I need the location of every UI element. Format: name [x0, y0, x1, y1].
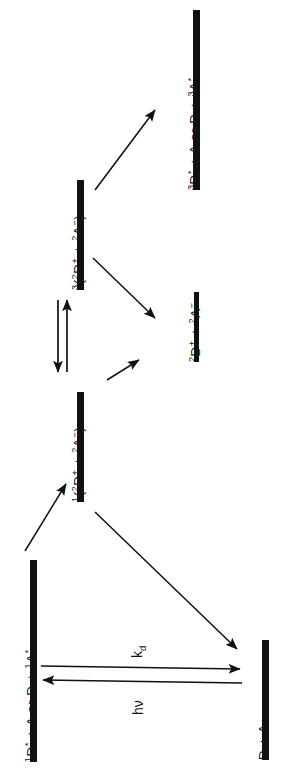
arrow-singlet-pair-to-ground: [95, 512, 237, 649]
energy-level-diagram: 1D* + A or D + 1A* 1(2D+ + 2A−) 3(2D+ + …: [0, 0, 286, 768]
rate-label-hnu: hν: [130, 700, 146, 715]
level-label-ground-state: D + A: [257, 724, 271, 760]
level-label-singlet-excited: 1D* + A or D + 1A*: [25, 649, 39, 762]
level-label-triplet-ion-pair: 3(2D+ + 2A−): [72, 215, 86, 290]
arrow-excited-to-ground-kd: [41, 666, 240, 669]
rate-label-kd: kd: [129, 646, 145, 658]
arrow-ground-to-excited-hnu: [43, 680, 242, 683]
arrow-triplet-pair-to-triplet-excited: [95, 110, 155, 190]
arrow-triplet-pair-to-free-ions: [93, 258, 155, 318]
arrow-excite-to-singlet-pair: [25, 484, 66, 551]
arrow-singlet-pair-to-free-ions: [107, 360, 139, 380]
level-label-singlet-ion-pair: 1(2D+ + 2A−): [72, 427, 86, 502]
level-label-free-ions: 2D+ + 2A−: [189, 302, 203, 362]
level-label-triplet-excited: 3D* + A or D + 3A*: [188, 77, 202, 190]
